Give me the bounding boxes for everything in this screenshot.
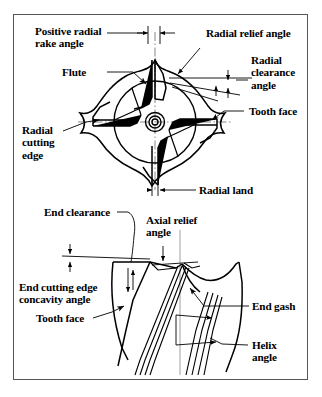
label-radial-relief-angle: Radial relief angle (206, 27, 291, 39)
label-end-cutting-edge-concavity-angle: End cutting edge concavity angle (19, 281, 97, 306)
label-radial-land: Radial land (199, 184, 253, 196)
label-helix-angle: Helix angle (252, 339, 277, 364)
label-flute: Flute (62, 66, 86, 78)
helix-flute-left (135, 266, 189, 375)
top-view-cutter (78, 32, 232, 190)
side-view-cutter (112, 230, 242, 375)
label-positive-radial-rake-angle: Positive radial rake angle (35, 25, 101, 50)
label-radial-cutting-edge: Radial cutting edge (22, 124, 55, 161)
leader-end-clearance (117, 212, 135, 262)
label-end-clearance: End clearance (44, 206, 110, 218)
leader-helix (222, 344, 248, 345)
leader-relief (178, 48, 200, 74)
concavity-ref-line (62, 256, 150, 259)
end-gash-curve (182, 262, 239, 280)
tooth-right (169, 119, 217, 143)
top-view-centerlines (78, 32, 232, 190)
label-end-gash: End gash (252, 300, 295, 312)
label-axial-relief-angle: Axial relief angle (146, 214, 197, 239)
leader-tooth-face-side (93, 312, 112, 318)
label-radial-clearance-angle: Radial clearance angle (251, 54, 295, 91)
right-inner (182, 264, 200, 292)
helix-flute-right (186, 292, 222, 375)
label-tooth-face-side: Tooth face (36, 312, 84, 324)
label-tooth-face-top: Tooth face (249, 105, 297, 117)
right-outer-profile (226, 262, 242, 372)
left-outer-profile (112, 262, 122, 348)
